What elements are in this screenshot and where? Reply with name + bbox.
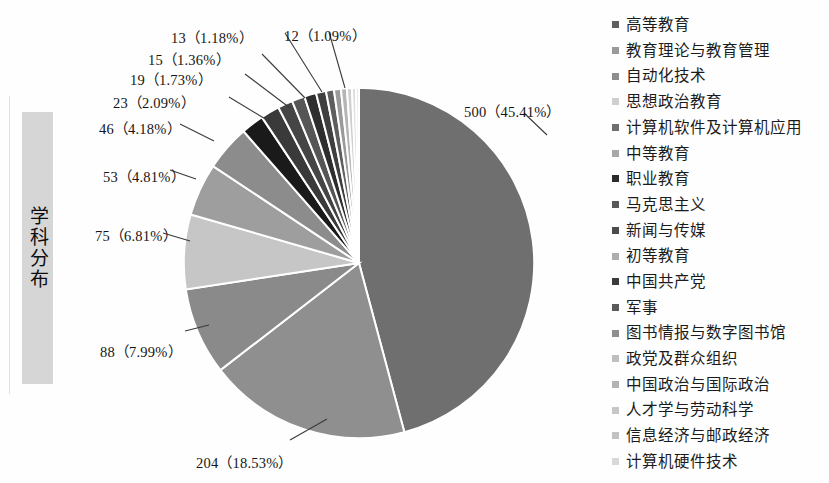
pie-chart xyxy=(183,87,535,439)
legend-swatch-icon xyxy=(612,227,619,234)
legend-item[interactable]: 职业教育 xyxy=(612,166,827,192)
pie-svg xyxy=(183,87,535,439)
legend-swatch-icon xyxy=(612,381,619,388)
pie-data-label: 13（1.18%） xyxy=(171,26,253,47)
legend-swatch-icon xyxy=(612,407,619,414)
legend-item[interactable]: 教育理论与教育管理 xyxy=(612,38,827,64)
pie-data-label: 88（7.99%） xyxy=(100,340,182,361)
page-edge-line xyxy=(9,96,10,394)
pie-data-label: 15（1.36%） xyxy=(148,48,230,69)
pie-data-label: 46（4.18%） xyxy=(99,117,181,138)
legend-item-label: 信息经济与邮政经济 xyxy=(626,428,770,444)
legend: 高等教育教育理论与教育管理自动化技术思想政治教育计算机软件及计算机应用中等教育职… xyxy=(612,12,827,474)
legend-item[interactable]: 中等教育 xyxy=(612,140,827,166)
legend-item-label: 计算机软件及计算机应用 xyxy=(626,120,802,136)
legend-swatch-icon xyxy=(612,175,619,182)
legend-item-label: 图书情报与数字图书馆 xyxy=(626,325,786,341)
legend-swatch-icon xyxy=(612,304,619,311)
pie-data-label: 204（18.53%） xyxy=(196,451,293,472)
legend-swatch-icon xyxy=(612,458,619,465)
legend-item-label: 职业教育 xyxy=(626,171,690,187)
legend-swatch-icon xyxy=(612,253,619,260)
legend-item[interactable]: 计算机软件及计算机应用 xyxy=(612,115,827,141)
pie-chart-figure: 学科分布 500（45.41%）204（18.53%）88（7.99%）75（6… xyxy=(0,0,829,483)
legend-item-label: 军事 xyxy=(626,300,658,316)
legend-item-label: 新闻与传媒 xyxy=(626,223,706,239)
legend-swatch-icon xyxy=(612,278,619,285)
pie-data-label: 75（6.81%） xyxy=(95,224,177,245)
legend-item[interactable]: 高等教育 xyxy=(612,12,827,38)
pie-data-label: 12（1.09%） xyxy=(284,24,366,45)
legend-item[interactable]: 新闻与传媒 xyxy=(612,218,827,244)
row-label-text: 学科分布 xyxy=(27,206,48,290)
legend-swatch-icon xyxy=(612,201,619,208)
legend-swatch-icon xyxy=(612,432,619,439)
legend-swatch-icon xyxy=(612,150,619,157)
pie-data-label: 19（1.73%） xyxy=(130,68,212,89)
pie-data-label: 23（2.09%） xyxy=(113,91,195,112)
legend-item[interactable]: 马克思主义 xyxy=(612,192,827,218)
legend-item-label: 人才学与劳动科学 xyxy=(626,402,754,418)
legend-swatch-icon xyxy=(612,355,619,362)
legend-swatch-icon xyxy=(612,98,619,105)
legend-item-label: 马克思主义 xyxy=(626,197,706,213)
legend-item-label: 思想政治教育 xyxy=(626,94,722,110)
legend-item[interactable]: 军事 xyxy=(612,295,827,321)
legend-item[interactable]: 初等教育 xyxy=(612,243,827,269)
legend-item[interactable]: 中国政治与国际政治 xyxy=(612,372,827,398)
legend-item-label: 初等教育 xyxy=(626,248,690,264)
legend-item[interactable]: 自动化技术 xyxy=(612,63,827,89)
legend-item-label: 中国共产党 xyxy=(626,274,706,290)
pie-data-label: 500（45.41%） xyxy=(464,100,561,121)
legend-item[interactable]: 人才学与劳动科学 xyxy=(612,397,827,423)
legend-swatch-icon xyxy=(612,21,619,28)
legend-item[interactable]: 政党及群众组织 xyxy=(612,346,827,372)
pie-slice-group xyxy=(184,88,534,438)
legend-item[interactable]: 计算机硬件技术 xyxy=(612,449,827,475)
legend-item-label: 教育理论与教育管理 xyxy=(626,43,770,59)
legend-item-label: 中国政治与国际政治 xyxy=(626,377,770,393)
legend-item-label: 自动化技术 xyxy=(626,68,706,84)
legend-swatch-icon xyxy=(612,47,619,54)
row-label-block: 学科分布 xyxy=(22,112,53,384)
legend-item[interactable]: 图书情报与数字图书馆 xyxy=(612,320,827,346)
pie-data-label: 53（4.81%） xyxy=(103,165,185,186)
legend-item-label: 高等教育 xyxy=(626,17,690,33)
legend-swatch-icon xyxy=(612,73,619,80)
legend-swatch-icon xyxy=(612,330,619,337)
legend-item-label: 中等教育 xyxy=(626,146,690,162)
legend-item[interactable]: 信息经济与邮政经济 xyxy=(612,423,827,449)
legend-item[interactable]: 思想政治教育 xyxy=(612,89,827,115)
legend-item-label: 计算机硬件技术 xyxy=(626,454,738,470)
legend-swatch-icon xyxy=(612,124,619,131)
legend-item-label: 政党及群众组织 xyxy=(626,351,738,367)
legend-item[interactable]: 中国共产党 xyxy=(612,269,827,295)
